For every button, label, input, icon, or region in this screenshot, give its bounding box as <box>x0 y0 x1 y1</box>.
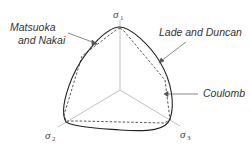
sigma1-label: σ 1 <box>113 8 124 22</box>
lade-leader <box>161 42 186 61</box>
coulomb-label: Coulomb <box>203 87 245 99</box>
matsuoka-label-line2: and Nakai <box>18 34 66 46</box>
matsuoka-label-line1: Matsuoka <box>10 21 56 33</box>
leader-lines <box>68 33 198 97</box>
yield-surface-diagram: Matsuoka and Nakai Lade and Duncan Coulo… <box>0 0 251 147</box>
sigma2-label: σ 2 <box>45 129 56 143</box>
matsuoka-nakai-lade-duncan-curve <box>64 27 173 131</box>
lade-duncan-label: Lade and Duncan <box>159 26 242 38</box>
sigma3-axis <box>120 90 180 126</box>
svg-text:2: 2 <box>52 135 56 143</box>
svg-text:3: 3 <box>187 134 191 142</box>
coulomb-arrowhead <box>164 92 168 97</box>
sigma3-label: σ 3 <box>180 128 191 142</box>
matsuoka-leader <box>68 33 95 43</box>
svg-text:σ: σ <box>45 129 51 141</box>
coulomb-curve <box>64 28 170 123</box>
svg-text:1: 1 <box>120 14 124 22</box>
matsuoka-arrowhead <box>92 40 97 45</box>
svg-text:σ: σ <box>113 8 119 20</box>
svg-text:σ: σ <box>180 128 186 140</box>
lade-arrowhead <box>159 58 164 63</box>
